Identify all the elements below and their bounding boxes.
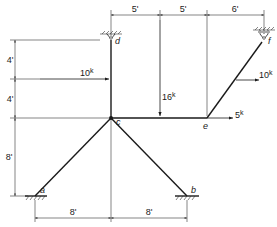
joint-label-f: f xyxy=(268,36,272,46)
dim-top-3: 6' xyxy=(232,4,239,14)
dim-left-2: 4' xyxy=(7,94,14,104)
member-b-c xyxy=(111,118,187,196)
load-10k-right-label: 10k xyxy=(259,69,273,80)
load-5k-label: 5k xyxy=(235,109,244,120)
support-f-roller-icon xyxy=(253,27,275,39)
support-b-fixed-icon xyxy=(175,196,199,200)
dim-top-1: 5' xyxy=(132,4,139,14)
joint-label-c: c xyxy=(116,117,121,127)
joint-c-dot xyxy=(109,116,113,120)
dim-left-1: 4' xyxy=(7,55,14,65)
support-a-fixed-icon xyxy=(25,196,47,200)
top-dimensions: 5' 5' 6' xyxy=(111,4,264,15)
joint-label-a: a xyxy=(40,185,45,195)
member-a-c xyxy=(35,118,111,196)
joint-label-b: b xyxy=(191,185,196,195)
dim-top-2: 5' xyxy=(180,4,187,14)
extension-lines xyxy=(10,10,264,222)
joint-label-e: e xyxy=(203,121,208,131)
dim-left-3: 8' xyxy=(6,152,13,162)
load-16k-label: 16k xyxy=(162,91,176,102)
joint-label-d: d xyxy=(115,36,121,46)
structural-frame-diagram: 5' 5' 6' 4' 4' 8' 8' 8' d xyxy=(0,0,277,227)
dim-bottom-2: 8' xyxy=(146,207,153,217)
dim-bottom-1: 8' xyxy=(70,207,77,217)
load-10k-left-label: 10k xyxy=(80,67,94,78)
